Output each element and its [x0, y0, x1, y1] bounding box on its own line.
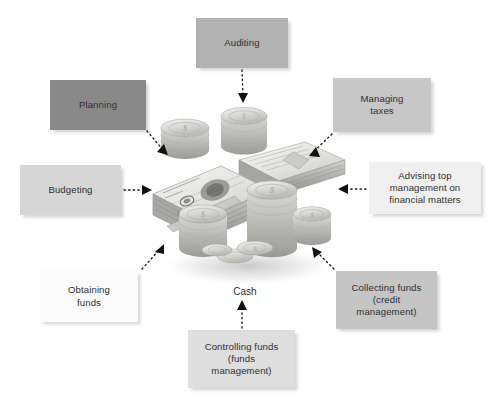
- node-advising-top-management[interactable]: Advising top management on financial mat…: [369, 162, 481, 214]
- node-auditing-label: Auditing: [224, 37, 259, 49]
- node-collecting-funds[interactable]: Collecting funds (credit management): [336, 271, 437, 329]
- arrow-line-auditing: [242, 70, 243, 96]
- svg-text:$: $: [310, 211, 314, 219]
- arrowhead-controlling-funds: [237, 300, 247, 310]
- node-auditing[interactable]: Auditing: [196, 18, 288, 68]
- node-obtaining-funds-label: Obtaining funds: [68, 284, 110, 308]
- node-collecting-funds-label: Collecting funds (credit management): [352, 282, 422, 319]
- coin-stack-far-right: $: [293, 207, 331, 245]
- cash-management-diagram: $ $: [0, 0, 491, 403]
- cash-label: Cash: [205, 286, 285, 297]
- node-controlling-funds[interactable]: Controlling funds (funds management): [188, 330, 295, 388]
- node-budgeting[interactable]: Budgeting: [20, 165, 121, 215]
- node-managing-taxes[interactable]: Managing taxes: [333, 78, 431, 132]
- node-budgeting-label: Budgeting: [48, 184, 92, 196]
- node-obtaining-funds[interactable]: Obtaining funds: [40, 271, 138, 322]
- svg-text:$: $: [201, 210, 205, 219]
- node-advising-top-management-label: Advising top management on financial mat…: [389, 170, 461, 207]
- coin-stack-back-left: $: [161, 119, 209, 159]
- cash-artwork: $ $: [143, 98, 353, 288]
- svg-text:$: $: [183, 124, 187, 133]
- svg-text:$: $: [253, 245, 257, 253]
- node-controlling-funds-label: Controlling funds (funds management): [205, 341, 279, 378]
- node-planning-label: Planning: [79, 99, 117, 111]
- node-planning[interactable]: Planning: [50, 80, 146, 130]
- node-managing-taxes-label: Managing taxes: [361, 93, 404, 117]
- coin-stack-back-right: $: [221, 107, 267, 154]
- svg-text:$: $: [242, 112, 246, 121]
